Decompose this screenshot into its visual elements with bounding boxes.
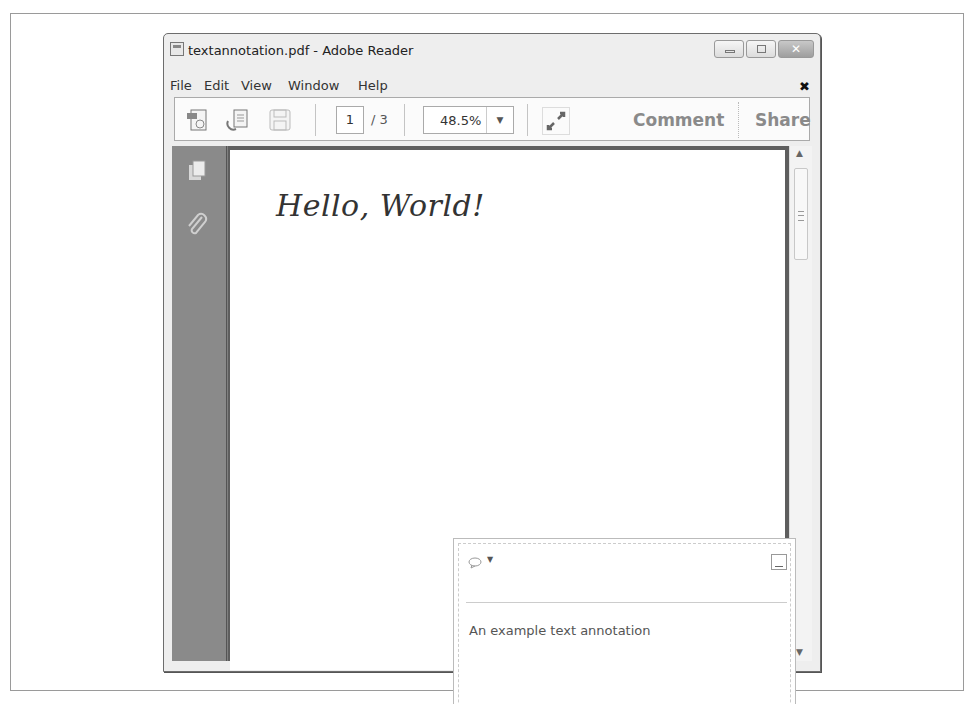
window-title: textannotation.pdf - Adobe Reader: [188, 43, 413, 58]
menu-window[interactable]: Window: [288, 78, 339, 93]
save-icon[interactable]: [267, 107, 293, 133]
menu-bar: File Edit View Window Help ✖: [164, 62, 820, 84]
annotation-text[interactable]: An example text annotation: [469, 623, 651, 638]
title-bar[interactable]: textannotation.pdf - Adobe Reader ✕: [164, 34, 820, 62]
create-pdf-icon[interactable]: [185, 107, 211, 133]
share-button[interactable]: Share: [755, 110, 811, 130]
scrollbar-thumb[interactable]: [794, 168, 808, 260]
menu-file[interactable]: File: [170, 78, 192, 93]
minimize-annotation-button[interactable]: [771, 554, 787, 570]
zoom-value: 48.5%: [440, 113, 481, 128]
zoom-input[interactable]: 48.5% ▼: [423, 106, 514, 134]
pages-icon[interactable]: [184, 158, 210, 184]
minimize-button[interactable]: [714, 40, 744, 58]
menu-help[interactable]: Help: [358, 78, 388, 93]
page-heading: Hello, World!: [276, 188, 485, 223]
grip-icon: [798, 211, 804, 221]
comment-button[interactable]: Comment: [633, 110, 724, 130]
toolbar-divider: [315, 104, 316, 136]
toolbar-divider: [738, 102, 740, 138]
page-total: / 3: [371, 112, 388, 127]
scroll-up-arrow[interactable]: ▲: [796, 148, 803, 158]
annotation-options-dropdown[interactable]: ▼: [487, 555, 493, 564]
scroll-down-arrow[interactable]: ▼: [796, 647, 803, 657]
content-area: Hello, World! ▲ ▼ ▼ An example text anno…: [172, 146, 812, 661]
zoom-dropdown-button[interactable]: ▼: [486, 107, 513, 133]
menu-edit[interactable]: Edit: [204, 78, 229, 93]
attachment-icon[interactable]: [184, 212, 210, 238]
text-annotation-popup[interactable]: ▼ An example text annotation ⑊ ⫽: [453, 538, 796, 704]
annotation-divider: [466, 602, 787, 603]
window-controls: ✕: [714, 40, 814, 58]
close-window-button[interactable]: ✕: [778, 40, 814, 58]
toolbar: 1 / 3 48.5% ▼ Comment Share: [174, 97, 810, 141]
maximize-button[interactable]: [746, 40, 776, 58]
toolbar-divider: [404, 104, 405, 136]
close-document-button[interactable]: ✖: [799, 79, 810, 94]
page-number-input[interactable]: 1: [336, 106, 364, 134]
adobe-reader-app-icon: [170, 42, 184, 56]
open-file-icon[interactable]: [225, 107, 251, 133]
toolbar-divider: [527, 104, 528, 136]
adobe-reader-window: textannotation.pdf - Adobe Reader ✕ File…: [163, 33, 821, 672]
navigation-pane: [172, 146, 227, 661]
menu-view[interactable]: View: [241, 78, 272, 93]
comment-bubble-icon[interactable]: [468, 557, 482, 569]
full-screen-icon[interactable]: [542, 107, 570, 135]
